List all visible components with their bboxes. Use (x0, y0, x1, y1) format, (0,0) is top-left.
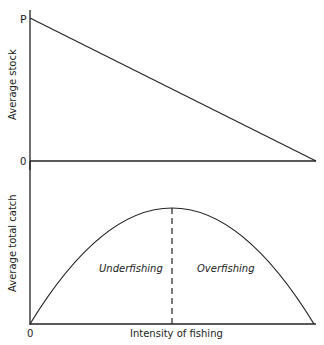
catch-panel: Underfishing Overfishing 0 Intensity of … (7, 161, 316, 339)
catch-y-label: Average total catch (7, 194, 18, 292)
stock-line (30, 18, 316, 161)
fishing-chart: P 0 Average stock Underfishing Overfishi… (0, 0, 324, 345)
catch-curve (30, 208, 314, 324)
stock-y-label: Average stock (7, 49, 18, 120)
overfishing-label: Overfishing (197, 263, 255, 274)
underfishing-label: Underfishing (99, 263, 163, 274)
x-axis-label: Intensity of fishing (130, 328, 223, 339)
top-zero-label: 0 (20, 156, 26, 167)
p-label: P (20, 13, 27, 26)
stock-panel: P 0 Average stock (7, 10, 316, 170)
bottom-zero-label: 0 (27, 328, 33, 339)
